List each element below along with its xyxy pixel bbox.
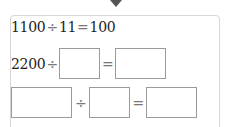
down-arrow-icon [110, 0, 122, 7]
divisor-input-box[interactable] [89, 87, 130, 118]
dividend: 1100 [11, 19, 45, 35]
equals-sign: = [132, 95, 143, 111]
equation-row-2: 2200 ÷ = [11, 48, 166, 79]
divisor-input-box[interactable] [59, 48, 100, 79]
divide-sign: ÷ [46, 19, 57, 35]
divide-sign: ÷ [75, 95, 86, 111]
equation-row-3: ÷ = [11, 87, 197, 118]
quotient-input-box[interactable] [146, 87, 197, 118]
dividend: 2200 [11, 56, 45, 72]
dividend-input-box[interactable] [11, 87, 72, 118]
equation-row-1: 1100 ÷ 11 = 100 [11, 19, 115, 35]
divide-sign: ÷ [46, 56, 57, 72]
equals-sign: = [77, 19, 88, 35]
quotient: 100 [90, 19, 116, 35]
equals-sign: = [102, 56, 113, 72]
quotient-input-box[interactable] [115, 48, 166, 79]
divisor: 11 [59, 19, 76, 35]
